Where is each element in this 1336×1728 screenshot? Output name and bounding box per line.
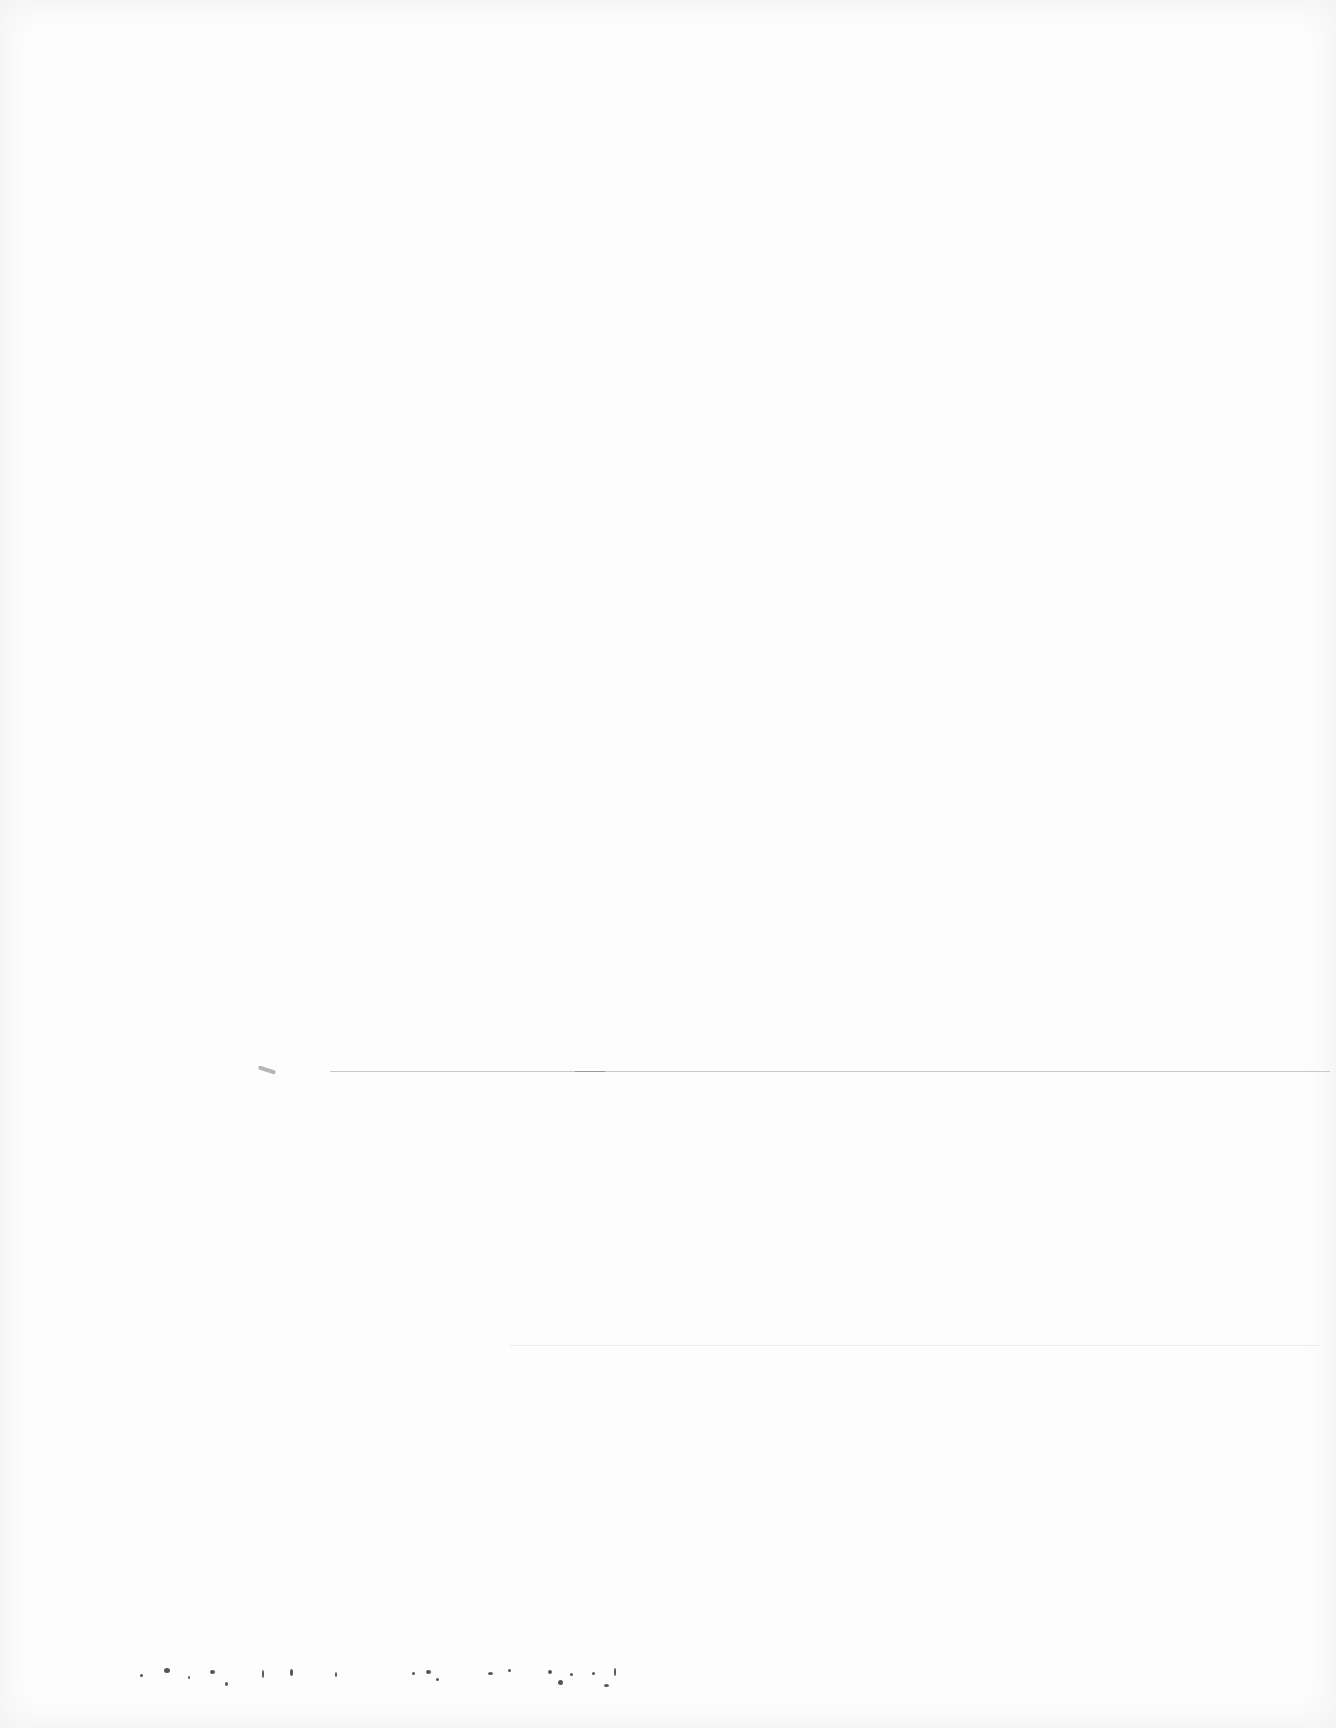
footer-degraded-text — [130, 1660, 710, 1690]
speck — [426, 1670, 431, 1674]
speck — [604, 1684, 609, 1687]
speck — [558, 1680, 563, 1685]
speck — [548, 1670, 552, 1674]
speck — [225, 1682, 228, 1686]
speck — [508, 1669, 511, 1672]
speck — [164, 1668, 170, 1673]
speck — [570, 1673, 573, 1676]
speck — [140, 1674, 143, 1677]
horizontal-rule-main — [330, 1071, 1330, 1072]
horizontal-rule-faint — [510, 1345, 1320, 1346]
speck — [210, 1670, 215, 1674]
speck — [262, 1670, 264, 1678]
speck — [436, 1678, 439, 1681]
speck — [592, 1672, 595, 1675]
speck — [488, 1672, 493, 1675]
speck — [290, 1669, 293, 1676]
rule-start-mark — [258, 1065, 276, 1074]
speck — [335, 1672, 337, 1677]
page-edge-shading — [0, 0, 1336, 1728]
speck — [614, 1668, 616, 1676]
speck — [412, 1672, 415, 1675]
speck — [188, 1676, 190, 1679]
